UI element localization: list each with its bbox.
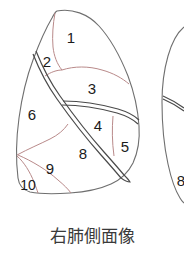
segment-label-8b: 8 xyxy=(177,172,184,189)
segment-label-10: 10 xyxy=(20,177,36,193)
segment-label-2: 2 xyxy=(43,53,51,70)
segment-label-6: 6 xyxy=(28,106,36,123)
segment-label-4: 4 xyxy=(94,117,102,134)
right-lung-group xyxy=(17,10,140,193)
lung-segment-figure: 8 1 2 3 4 5 6 8 9 10 右肺側面像 xyxy=(0,0,184,268)
segment-label-9: 9 xyxy=(46,160,54,177)
left-oblique-fissure-partial xyxy=(163,96,184,111)
segment-label-8: 8 xyxy=(79,145,87,162)
segment-label-5: 5 xyxy=(121,138,129,155)
figure-caption: 右肺側面像 xyxy=(0,222,184,247)
segment-label-1: 1 xyxy=(67,29,75,46)
segment-label-3: 3 xyxy=(88,80,96,97)
left-lung-partial-group: 8 xyxy=(162,27,184,203)
